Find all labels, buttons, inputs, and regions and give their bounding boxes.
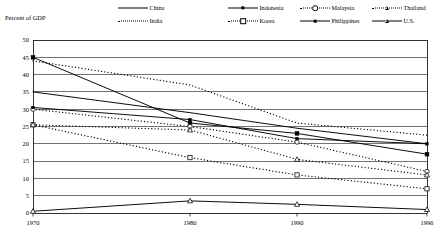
datapoint-korea-1990	[295, 173, 299, 177]
datapoint-philippines-1990	[296, 137, 299, 140]
y-axis-tick-label: 50	[23, 36, 29, 43]
x-axis-tick-label: 1996	[421, 219, 434, 226]
series-line-korea	[33, 125, 427, 189]
x-axis-tick-label: 1990	[291, 219, 304, 226]
datapoint-indonesia-1996	[425, 152, 429, 156]
y-axis-tick-label: 40	[23, 71, 29, 78]
datapoint-philippines-1970	[32, 106, 35, 109]
y-axis-tick-label: 15	[23, 157, 29, 164]
series-line-india	[33, 61, 427, 135]
y-axis-tick-label: 35	[23, 88, 29, 95]
datapoint-philippines-1996	[426, 142, 429, 145]
series-line-philippines	[33, 107, 427, 143]
datapoint-malaysia-1990	[295, 140, 299, 144]
x-axis-tick-label: 1980	[184, 219, 197, 226]
y-axis-tick-label: 30	[23, 106, 29, 113]
datapoint-korea-1980	[188, 156, 192, 160]
series-line-indonesia	[33, 57, 427, 154]
datapoint-indonesia-1990	[295, 132, 299, 136]
x-axis-tick-label: 1970	[27, 219, 40, 226]
y-axis-tick-label: 10	[23, 175, 29, 182]
chart-figure: Percent of GDP ChinaIndiaIndonesiaKoreaM…	[0, 0, 446, 246]
datapoint-philippines-1980	[189, 118, 192, 121]
datapoint-korea-1996	[425, 187, 429, 191]
y-axis-tick-label: 5	[26, 192, 29, 199]
y-axis-tick-label: 0	[26, 209, 29, 216]
y-axis-tick-label: 20	[23, 140, 29, 147]
datapoint-indonesia-1970	[31, 55, 35, 59]
chart-svg: 051015202530354045501970198019901996	[0, 0, 446, 246]
y-axis-tick-label: 25	[23, 123, 29, 130]
y-axis-tick-label: 45	[23, 54, 29, 61]
plot-area: 051015202530354045501970198019901996	[0, 0, 446, 246]
datapoint-thailand-1990	[295, 157, 300, 162]
series-line-us	[33, 201, 427, 211]
